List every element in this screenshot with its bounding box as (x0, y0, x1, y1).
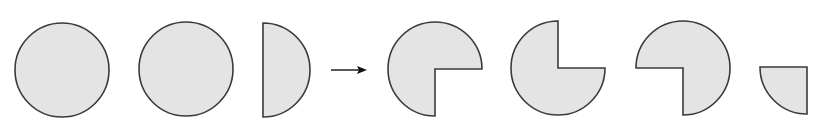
three-quarter-3-shape (636, 21, 730, 115)
quarter-circle-shape (760, 67, 807, 114)
circle-1-shape (15, 23, 109, 117)
diagram-canvas (0, 0, 819, 126)
three-quarter-2-shape (511, 21, 605, 115)
shape-sequence-diagram (0, 0, 819, 126)
circle-2-shape (139, 22, 233, 116)
three-quarter-1-shape (388, 22, 482, 116)
half-circle-shape (263, 23, 310, 117)
